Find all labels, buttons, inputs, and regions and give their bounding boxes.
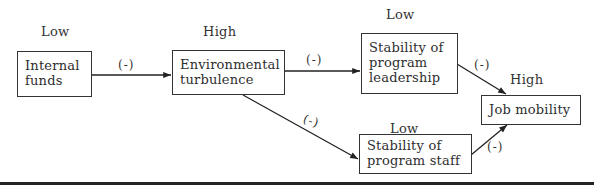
edge-sign-leadership-to-job-mobility: (-) [474, 58, 490, 72]
level-label-job-mobility: High [510, 72, 543, 87]
causal-diagram: Low High Low Low High Internal funds Env… [0, 0, 594, 189]
node-line: program staff [367, 153, 471, 168]
node-line: program [369, 55, 457, 70]
level-label-internal-funds: Low [41, 24, 70, 39]
node-line: Stability of [369, 40, 457, 55]
node-line: Internal [25, 58, 91, 73]
node-internal-funds: Internal funds [17, 51, 92, 97]
edge-sign-environmental-turbulence-to-leadership: (-) [306, 53, 322, 67]
edge-environmental-turbulence-to-staff [243, 95, 358, 159]
node-line: turbulence [180, 72, 284, 87]
edge-sign-staff-to-job-mobility: (-) [487, 140, 503, 154]
bottom-rule-divider [0, 182, 594, 185]
node-line: leadership [369, 70, 457, 85]
edge-sign-internal-funds-to-environmental-turbulence: (-) [118, 58, 134, 72]
node-environmental-turbulence: Environmental turbulence [172, 50, 285, 95]
level-label-environmental-turbulence: High [203, 24, 236, 39]
node-line: Environmental [180, 57, 284, 72]
node-line: Job mobility [489, 102, 580, 117]
node-line: funds [25, 73, 91, 88]
node-stability-program-staff: Stability of program staff [359, 134, 472, 174]
node-job-mobility: Job mobility [481, 95, 581, 125]
node-stability-program-leadership: Stability of program leadership [361, 33, 458, 94]
level-label-stability-program-leadership: Low [386, 7, 415, 22]
node-line: Stability of [367, 138, 471, 153]
